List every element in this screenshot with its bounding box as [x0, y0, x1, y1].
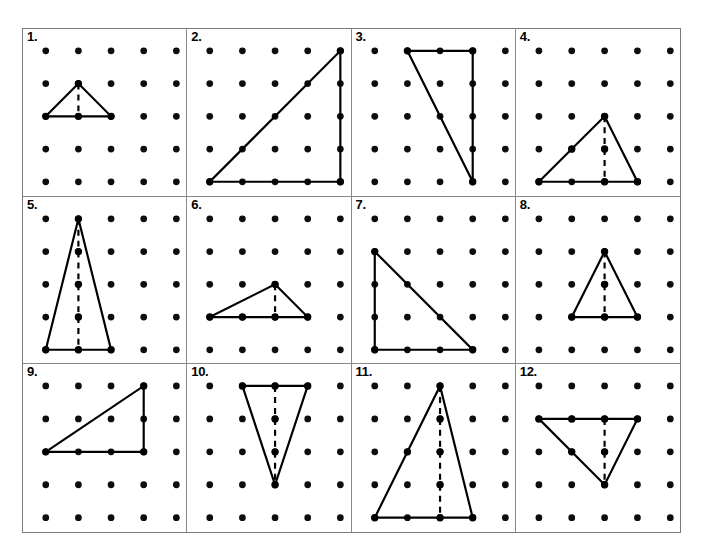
- grid-dot: [667, 113, 674, 120]
- grid-dot: [108, 47, 115, 54]
- grid-dot: [108, 178, 115, 185]
- figure-vertex-dot: [601, 280, 608, 287]
- figure-vertex-dot: [107, 346, 114, 353]
- grid-dot: [371, 146, 378, 153]
- grid-dot: [568, 113, 575, 120]
- grid-dot: [173, 146, 180, 153]
- figure-vertex-dot: [634, 313, 641, 320]
- worksheet-cell[interactable]: 12.: [516, 364, 680, 532]
- grid-dot: [634, 383, 641, 390]
- grid-dot: [75, 383, 82, 390]
- grid-dot: [535, 449, 542, 456]
- grid-dot: [75, 178, 82, 185]
- triangle-outline: [374, 251, 472, 349]
- grid-dot: [501, 248, 508, 255]
- grid-dot: [108, 313, 115, 320]
- grid-dot: [207, 346, 214, 353]
- figure-vertex-dot: [272, 280, 279, 287]
- grid-dot: [667, 449, 674, 456]
- grid-dot: [634, 281, 641, 288]
- figure-vertex-dot: [601, 248, 608, 255]
- figure-vertex-dot: [403, 47, 410, 54]
- figure-vertex-dot: [140, 448, 147, 455]
- figure-vertex-dot: [634, 416, 641, 423]
- worksheet-cell[interactable]: 8.: [516, 197, 680, 365]
- grid-dot: [337, 346, 344, 353]
- grid-dot: [305, 346, 312, 353]
- worksheet-cell[interactable]: 7.: [352, 197, 516, 365]
- grid-dot: [667, 80, 674, 87]
- grid-dot: [404, 215, 411, 222]
- worksheet-cell[interactable]: 11.: [352, 364, 516, 532]
- grid-dot: [535, 281, 542, 288]
- grid-dot: [404, 482, 411, 489]
- grid-dot: [42, 281, 49, 288]
- dot-grid-figure: [352, 364, 515, 532]
- grid-dot: [337, 449, 344, 456]
- grid-dot: [469, 449, 476, 456]
- figure-vertex-dot: [75, 346, 82, 353]
- grid-dot: [173, 215, 180, 222]
- worksheet-cell[interactable]: 5.: [23, 197, 187, 365]
- dot-grid-figure: [23, 29, 186, 196]
- grid-dot: [371, 416, 378, 423]
- figure-vertex-dot: [469, 178, 476, 185]
- worksheet-cell[interactable]: 1.: [23, 29, 187, 197]
- grid-dot: [173, 383, 180, 390]
- figure-vertex-dot: [337, 178, 344, 185]
- grid-dot: [634, 449, 641, 456]
- figure-vertex-dot: [535, 178, 542, 185]
- grid-dot: [337, 515, 344, 522]
- grid-dot: [207, 215, 214, 222]
- figure-vertex-dot: [75, 280, 82, 287]
- figure-vertex-dot: [601, 481, 608, 488]
- figure-vertex-dot: [239, 383, 246, 390]
- worksheet-cell[interactable]: 2.: [187, 29, 351, 197]
- grid-dot: [568, 47, 575, 54]
- figure-vertex-dot: [272, 448, 279, 455]
- worksheet-cell[interactable]: 9.: [23, 364, 187, 532]
- figure-vertex-dot: [140, 383, 147, 390]
- worksheet-cell[interactable]: 3.: [352, 29, 516, 197]
- cell-number-label: 8.: [520, 198, 530, 211]
- grid-dot: [601, 80, 608, 87]
- grid-dot: [501, 482, 508, 489]
- grid-dot: [173, 80, 180, 87]
- grid-dot: [239, 416, 246, 423]
- grid-dot: [404, 248, 411, 255]
- figure-vertex-dot: [42, 346, 49, 353]
- grid-dot: [371, 482, 378, 489]
- dot-grid-figure: [187, 197, 350, 364]
- grid-dot: [535, 313, 542, 320]
- grid-dot: [634, 113, 641, 120]
- figure-vertex-dot: [436, 416, 443, 423]
- figure-vertex-dot: [42, 113, 49, 120]
- figure-vertex-dot: [272, 416, 279, 423]
- figure-vertex-dot: [371, 346, 378, 353]
- grid-dot: [667, 47, 674, 54]
- grid-dot: [469, 215, 476, 222]
- grid-dot: [601, 383, 608, 390]
- figure-vertex-dot: [436, 514, 443, 521]
- grid-dot: [501, 178, 508, 185]
- grid-dot: [667, 146, 674, 153]
- grid-dot: [404, 313, 411, 320]
- dot-grid-figure: [352, 197, 515, 364]
- cell-number-label: 12.: [520, 365, 537, 378]
- grid-dot: [239, 113, 246, 120]
- grid-dot: [404, 80, 411, 87]
- figure-vertex-dot: [75, 248, 82, 255]
- grid-dot: [634, 482, 641, 489]
- worksheet-cell[interactable]: 10.: [187, 364, 351, 532]
- grid-dot: [667, 215, 674, 222]
- grid-dot: [568, 80, 575, 87]
- figure-vertex-dot: [206, 178, 213, 185]
- worksheet-cell[interactable]: 4.: [516, 29, 680, 197]
- grid-dot: [404, 416, 411, 423]
- grid-dot: [371, 383, 378, 390]
- grid-dot: [305, 482, 312, 489]
- triangle-outline: [210, 51, 341, 182]
- worksheet-cell[interactable]: 6.: [187, 197, 351, 365]
- grid-dot: [667, 178, 674, 185]
- grid-dot: [568, 248, 575, 255]
